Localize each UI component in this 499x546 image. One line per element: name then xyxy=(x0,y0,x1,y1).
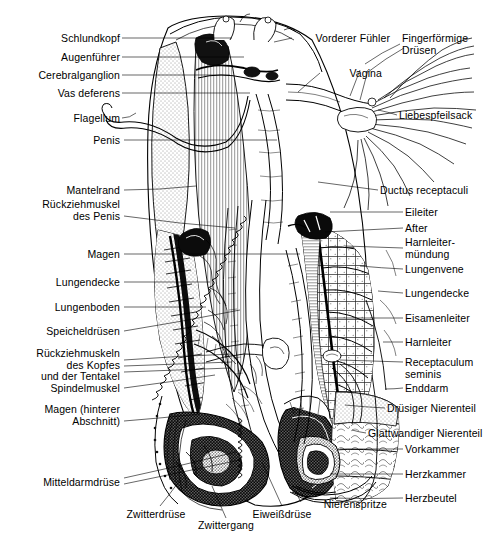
label-harnleiter: Harnleiter xyxy=(405,337,497,349)
label-herzbeutel: Herzbeutel xyxy=(405,493,497,505)
label-after: After xyxy=(405,223,497,235)
label-rueckziehmuskel-penis: Rückziehmuskel des Penis xyxy=(18,199,120,222)
label-spindelmuskel: Spindelmuskel xyxy=(25,383,120,395)
label-ductus-receptaculi: Ductus receptaculi xyxy=(380,185,498,197)
label-vorkammer: Vorkammer xyxy=(405,444,497,456)
label-lungendecke-rechts: Lungendecke xyxy=(405,288,497,300)
label-glattwandiger-nierenteil: Glattwandiger Nierenteil xyxy=(368,428,498,440)
label-harnleitermuendung: Harnleiter- mündung xyxy=(405,237,497,260)
label-lungendecke-links: Lungendecke xyxy=(30,277,120,289)
label-cerebralganglion: Cerebralganglion xyxy=(8,70,120,82)
label-penis: Penis xyxy=(67,135,120,147)
label-fingerfoermige-druesen: Fingerförmige Drüsen xyxy=(402,33,497,56)
label-flagellum: Flagellum xyxy=(44,113,120,125)
label-nierenspritze: Nierenspritze xyxy=(303,499,387,511)
label-schlundkopf: Schlundkopf xyxy=(34,33,120,45)
figure-page: SchlundkopfAugenführerCerebralganglionVa… xyxy=(0,0,499,546)
label-eiweissdruese: Eiweißdrüse xyxy=(240,509,324,521)
label-enddarm: Enddarm xyxy=(405,383,497,395)
label-liebespfeilsack: Liebespfeilsack xyxy=(399,110,497,122)
label-receptaculum-seminis: Receptaculum seminis xyxy=(405,357,497,380)
label-speicheldruesen: Speicheldrüsen xyxy=(21,326,120,338)
label-vagina: Vagina xyxy=(322,68,382,80)
label-vorderer-fuehler: Vorderer Fühler xyxy=(294,33,390,45)
label-mantelrand: Mantelrand xyxy=(39,185,120,197)
label-eileiter: Eileiter xyxy=(405,207,497,219)
label-rueckziehmuskeln-kopf: Rückziehmuskeln des Kopfes und der Tenta… xyxy=(10,348,120,383)
label-zwittergang: Zwittergang xyxy=(186,520,266,532)
label-magen-hinterer: Magen (hinterer Abschnitt) xyxy=(20,404,120,427)
label-augenfuehler: Augenführer xyxy=(28,52,120,64)
label-herzkammer: Herzkammer xyxy=(405,469,497,481)
label-mitteldarmdruese: Mitteldarmdrüse xyxy=(20,477,120,489)
label-lungenvene: Lungenvene xyxy=(405,264,497,276)
label-druesiger-nierenteil: Drüsiger Nierenteil xyxy=(387,403,497,415)
label-vas-deferens: Vas deferens xyxy=(29,88,120,100)
label-magen: Magen xyxy=(64,249,120,261)
label-eisamenleiter: Eisamenleiter xyxy=(405,313,497,325)
label-lungenboden: Lungenboden xyxy=(28,302,120,314)
label-zwitterdruese: Zwitterdrüse xyxy=(115,509,197,521)
